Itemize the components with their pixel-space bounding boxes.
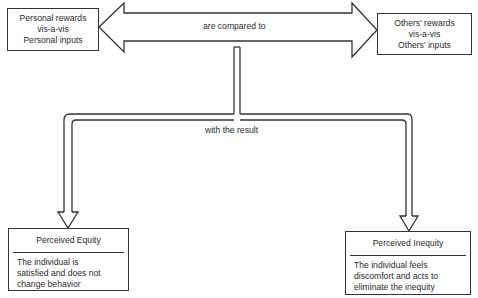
comparison-label: are compared to — [203, 21, 266, 31]
perceived-inequity-line: The individual feels — [354, 260, 470, 271]
divider — [13, 252, 124, 253]
others-box-line: vis-a-vis — [394, 29, 454, 40]
down-arrow-right — [400, 216, 418, 231]
perceived-inequity-title: Perceived Inequity — [346, 232, 470, 250]
others-box-line: Others' rewards — [394, 18, 454, 29]
personal-box-line: vis-a-vis — [20, 24, 87, 35]
perceived-equity-line: satisfied and does not — [17, 268, 128, 279]
perceived-equity-line: The individual is — [17, 257, 128, 268]
personal-box-line: Personal rewards — [20, 13, 87, 24]
divider — [350, 255, 466, 256]
perceived-inequity-box: Perceived Inequity The individual feels … — [345, 231, 471, 295]
perceived-inequity-line: discomfort and acts to — [354, 271, 470, 282]
others-box: Others' rewards vis-a-vis Others' inputs — [377, 13, 472, 55]
personal-box: Personal rewards vis-a-vis Personal inpu… — [7, 8, 99, 51]
perceived-inequity-line: eliminate the inequity — [354, 282, 470, 293]
result-label: with the result — [205, 125, 258, 135]
stem-connector — [234, 47, 240, 114]
personal-box-line: Personal inputs — [20, 35, 87, 46]
perceived-equity-line: change behavior — [17, 279, 128, 290]
perceived-equity-title: Perceived Equity — [9, 229, 128, 247]
down-arrow-left — [58, 212, 78, 228]
others-box-line: Others' inputs — [394, 40, 454, 51]
perceived-equity-box: Perceived Equity The individual is satis… — [8, 228, 129, 291]
